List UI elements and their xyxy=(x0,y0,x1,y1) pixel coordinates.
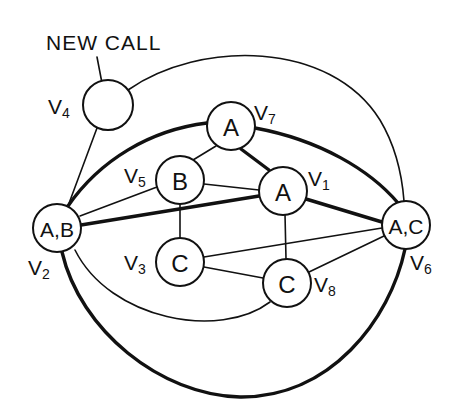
svg-text:B: B xyxy=(172,168,188,195)
new-call-caption: NEW CALL xyxy=(46,31,161,54)
edge-v5-v1 xyxy=(204,184,259,190)
node-v7[interactable]: A xyxy=(207,102,255,150)
edge-v3-v6 xyxy=(204,228,382,257)
edge-v3-v8 xyxy=(204,267,263,278)
node-v1[interactable]: A xyxy=(259,167,307,215)
svg-text:C: C xyxy=(278,271,295,298)
edge-v8-v6 xyxy=(309,236,384,272)
label-v4: V4 xyxy=(48,95,70,121)
edge-v2-v6 xyxy=(62,249,405,397)
label-v2: V2 xyxy=(28,256,50,282)
svg-text:A,C: A,C xyxy=(388,215,423,238)
node-v5[interactable]: B xyxy=(156,156,204,204)
svg-text:A: A xyxy=(223,114,239,141)
edge-v1-v8 xyxy=(285,214,286,259)
node-v2[interactable]: A,B xyxy=(33,204,81,252)
svg-text:C: C xyxy=(171,250,188,277)
edge-v1-v6 xyxy=(306,199,382,222)
graph-diagram: NEW CALL A B A A,B C C A,C V4 V7 V5 V1 V… xyxy=(0,0,456,416)
node-v3[interactable]: C xyxy=(156,238,204,286)
edge-v7-v1 xyxy=(241,149,269,170)
label-v7: V7 xyxy=(254,101,276,127)
edge-v5-v2 xyxy=(80,187,157,216)
label-v1: V1 xyxy=(308,167,330,193)
node-v6[interactable]: A,C xyxy=(382,201,430,249)
node-v4[interactable] xyxy=(83,80,133,130)
node-v8[interactable]: C xyxy=(263,259,311,307)
label-v3: V3 xyxy=(124,251,146,277)
edge-v4-v2 xyxy=(68,128,97,206)
edge-v7-v5 xyxy=(193,146,216,160)
label-v6: V6 xyxy=(410,251,432,277)
label-v5: V5 xyxy=(124,164,146,190)
label-v8: V8 xyxy=(314,273,336,299)
svg-text:A: A xyxy=(275,179,291,206)
svg-text:A,B: A,B xyxy=(40,218,74,241)
